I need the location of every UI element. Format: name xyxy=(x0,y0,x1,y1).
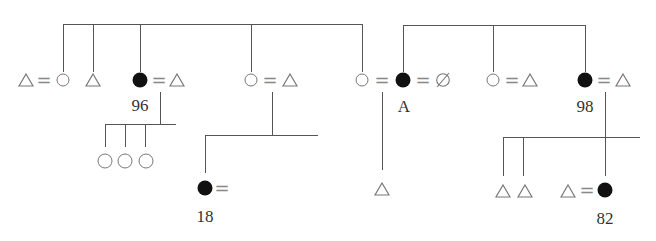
label-82: 82 xyxy=(597,209,614,229)
marriage-equals: = xyxy=(596,71,611,89)
drop-line xyxy=(63,24,64,72)
drop-line xyxy=(585,25,586,72)
affected-female-icon xyxy=(578,73,593,88)
affected-female-icon xyxy=(133,73,148,88)
marriage-equals: = xyxy=(579,181,594,199)
male-triangle-icon xyxy=(517,184,533,198)
female-circle-icon xyxy=(139,154,154,169)
sibship-line xyxy=(105,124,176,125)
sibship-line-left xyxy=(63,24,363,25)
marriage-equals: = xyxy=(214,179,229,197)
descent-line xyxy=(272,92,273,135)
drop-line xyxy=(205,135,206,173)
male-triangle-icon xyxy=(18,73,34,87)
drop-line xyxy=(503,137,504,176)
male-triangle-icon xyxy=(615,73,631,87)
female-circle-icon xyxy=(118,154,133,169)
drop-line xyxy=(140,24,141,72)
drop-line xyxy=(403,25,404,72)
drop-line xyxy=(493,25,494,72)
male-triangle-icon xyxy=(282,73,298,87)
label-18: 18 xyxy=(197,207,214,227)
marriage-equals: = xyxy=(374,71,389,89)
drop-line xyxy=(125,124,126,147)
descent-line xyxy=(160,92,161,124)
drop-line xyxy=(105,124,106,147)
pedigree-diagram: = = 96 = = = A = = 98 = 18 = 82 xyxy=(0,0,656,241)
descent-line xyxy=(382,92,383,170)
label-A: A xyxy=(398,97,410,117)
label-96: 96 xyxy=(132,96,149,116)
male-triangle-icon xyxy=(169,73,185,87)
marriage-equals: = xyxy=(36,71,51,89)
affected-female-icon xyxy=(396,73,411,88)
label-98: 98 xyxy=(577,97,594,117)
drop-line xyxy=(362,24,363,72)
male-triangle-icon xyxy=(85,73,101,87)
affected-female-icon xyxy=(598,183,613,198)
female-circle-icon xyxy=(356,74,369,87)
null-slashed-circle-icon xyxy=(435,72,451,88)
marriage-equals: = xyxy=(151,71,166,89)
marriage-equals: = xyxy=(504,71,519,89)
female-circle-icon xyxy=(98,154,113,169)
female-circle-icon xyxy=(487,74,500,87)
drop-line xyxy=(93,24,94,72)
marriage-equals: = xyxy=(415,71,430,89)
drop-line xyxy=(251,24,252,72)
affected-female-icon xyxy=(198,181,213,196)
female-circle-icon xyxy=(57,74,70,87)
male-triangle-icon xyxy=(495,184,511,198)
male-triangle-icon xyxy=(560,184,576,198)
sibship-line xyxy=(205,135,318,136)
drop-line xyxy=(523,137,524,176)
descent-line xyxy=(605,92,606,176)
female-circle-icon xyxy=(245,74,258,87)
drop-line xyxy=(145,124,146,147)
male-triangle-icon xyxy=(374,182,390,196)
male-triangle-icon xyxy=(522,73,538,87)
sibship-line-right xyxy=(403,25,586,26)
marriage-equals: = xyxy=(262,71,277,89)
